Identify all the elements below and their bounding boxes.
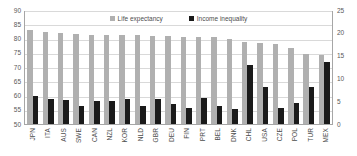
- right-axis-tick-0: 0: [337, 122, 341, 129]
- category-cell: NLD: [132, 126, 147, 156]
- category-label-tur: TUR: [306, 128, 313, 142]
- category-label-jpn: JPN: [28, 128, 35, 141]
- category-label-nld: NLD: [136, 128, 143, 141]
- bar-income-inequality-pol[interactable]: [294, 103, 300, 124]
- category-cell: DEU: [163, 126, 178, 156]
- category-label-kor: KOR: [121, 128, 128, 142]
- category-label-ita: ITA: [44, 128, 51, 138]
- bar-income-inequality-chl[interactable]: [247, 65, 253, 124]
- bar-income-inequality-mex[interactable]: [324, 62, 330, 124]
- bars-layer: [25, 11, 332, 124]
- category-cell: KOR: [117, 126, 132, 156]
- bar-group-aus[interactable]: [56, 11, 71, 124]
- category-cell: NZL: [101, 126, 116, 156]
- bar-group-prt[interactable]: [194, 11, 209, 124]
- category-label-aus: AUS: [59, 128, 66, 142]
- category-label-dnk: DNK: [229, 128, 236, 142]
- category-cell: JPN: [24, 126, 39, 156]
- left-axis-tick-60: 60: [14, 93, 21, 100]
- bar-income-inequality-jpn[interactable]: [33, 96, 39, 124]
- bar-income-inequality-bel[interactable]: [217, 106, 223, 124]
- bar-income-inequality-aus[interactable]: [63, 100, 69, 124]
- bar-group-bel[interactable]: [209, 11, 224, 124]
- category-label-prt: PRT: [198, 128, 205, 141]
- bar-group-fin[interactable]: [178, 11, 193, 124]
- category-label-gbr: GBR: [152, 128, 159, 142]
- category-cell: CAN: [86, 126, 101, 156]
- category-cell: TUR: [302, 126, 317, 156]
- category-cell: MEX: [318, 126, 333, 156]
- left-axis-tick-55: 55: [14, 107, 21, 114]
- right-axis-tick-5: 5: [337, 99, 341, 106]
- category-cell: DNK: [225, 126, 240, 156]
- left-axis-tick-70: 70: [14, 65, 21, 72]
- category-label-nzl: NZL: [105, 128, 112, 141]
- bar-income-inequality-gbr[interactable]: [155, 99, 161, 124]
- bar-income-inequality-nld[interactable]: [140, 106, 146, 124]
- left-axis-tick-85: 85: [14, 22, 21, 29]
- category-axis-labels: JPNITAAUSSWECANNZLKORNLDGBRDEUFINPRTBELD…: [24, 126, 333, 156]
- bar-income-inequality-tur[interactable]: [309, 87, 315, 124]
- bar-group-pol[interactable]: [286, 11, 301, 124]
- bar-income-inequality-usa[interactable]: [263, 87, 269, 124]
- bar-income-inequality-fin[interactable]: [186, 108, 192, 124]
- left-axis-tick-65: 65: [14, 79, 21, 86]
- bar-group-kor[interactable]: [117, 11, 132, 124]
- category-label-pol: POL: [291, 128, 298, 141]
- left-axis-tick-80: 80: [14, 36, 21, 43]
- category-cell: USA: [256, 126, 271, 156]
- bar-group-usa[interactable]: [255, 11, 270, 124]
- bar-group-can[interactable]: [86, 11, 101, 124]
- bar-group-swe[interactable]: [71, 11, 86, 124]
- category-cell: POL: [287, 126, 302, 156]
- category-cell: AUS: [55, 126, 70, 156]
- bar-income-inequality-kor[interactable]: [125, 99, 131, 124]
- left-axis-tick-50: 50: [14, 122, 21, 129]
- bar-income-inequality-nzl[interactable]: [109, 101, 115, 124]
- category-label-can: CAN: [90, 128, 97, 142]
- bar-income-inequality-dnk[interactable]: [232, 109, 238, 125]
- right-axis-tick-15: 15: [337, 53, 344, 60]
- bar-group-jpn[interactable]: [25, 11, 40, 124]
- category-label-chl: CHL: [245, 128, 252, 141]
- bar-group-mex[interactable]: [317, 11, 332, 124]
- bar-income-inequality-deu[interactable]: [171, 104, 177, 124]
- category-cell: PRT: [194, 126, 209, 156]
- bar-group-gbr[interactable]: [148, 11, 163, 124]
- bar-income-inequality-prt[interactable]: [201, 98, 207, 124]
- category-label-cze: CZE: [275, 128, 282, 141]
- category-label-bel: BEL: [214, 128, 221, 141]
- bar-group-nzl[interactable]: [102, 11, 117, 124]
- category-cell: BEL: [209, 126, 224, 156]
- category-label-deu: DEU: [167, 128, 174, 142]
- right-axis-tick-20: 20: [337, 30, 344, 37]
- bar-group-nld[interactable]: [132, 11, 147, 124]
- bar-group-tur[interactable]: [301, 11, 316, 124]
- category-cell: GBR: [148, 126, 163, 156]
- bar-group-ita[interactable]: [40, 11, 55, 124]
- left-axis-tick-75: 75: [14, 50, 21, 57]
- bar-income-inequality-ita[interactable]: [48, 99, 54, 124]
- bar-group-cze[interactable]: [271, 11, 286, 124]
- category-label-mex: MEX: [322, 128, 329, 142]
- chart-container: 908580757065605550 2520151050 Life expec…: [0, 0, 357, 156]
- right-axis-tick-25: 25: [337, 8, 344, 15]
- left-axis: 908580757065605550: [0, 0, 24, 156]
- bar-income-inequality-cze[interactable]: [278, 108, 284, 124]
- right-axis-tick-10: 10: [337, 76, 344, 83]
- category-cell: CZE: [271, 126, 286, 156]
- bar-income-inequality-can[interactable]: [94, 101, 100, 124]
- category-label-fin: FIN: [183, 128, 190, 139]
- bar-group-chl[interactable]: [240, 11, 255, 124]
- category-cell: CHL: [240, 126, 255, 156]
- bar-group-deu[interactable]: [163, 11, 178, 124]
- bar-group-dnk[interactable]: [224, 11, 239, 124]
- bar-income-inequality-swe[interactable]: [79, 106, 85, 124]
- category-cell: FIN: [179, 126, 194, 156]
- category-cell: SWE: [70, 126, 85, 156]
- category-cell: ITA: [39, 126, 54, 156]
- left-axis-tick-90: 90: [14, 8, 21, 15]
- category-label-usa: USA: [260, 128, 267, 142]
- category-label-swe: SWE: [75, 128, 82, 143]
- right-axis: 2520151050: [333, 0, 357, 156]
